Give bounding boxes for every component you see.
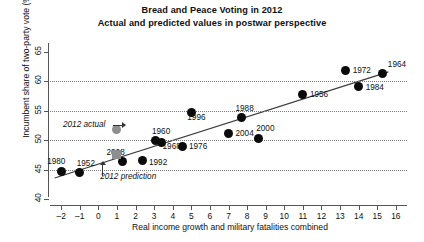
x-axis-tick-label: –1 [71, 211, 89, 221]
chart-container: Bread and Peace Voting in 2012 Actual an… [0, 0, 424, 242]
x-axis-tick-label: 3 [145, 211, 163, 221]
x-axis-tick [210, 205, 211, 210]
x-axis-tick-label: 16 [387, 211, 405, 221]
data-point [112, 150, 121, 159]
x-axis-tick-label: 14 [350, 211, 368, 221]
x-axis-tick [117, 205, 118, 210]
x-axis-tick [247, 205, 248, 210]
data-point [237, 113, 246, 122]
x-axis-tick [98, 205, 99, 210]
data-point [178, 142, 187, 151]
gridline [50, 81, 407, 82]
x-axis-tick-label: 1 [108, 211, 126, 221]
data-point-label: 1988 [236, 104, 254, 113]
data-point-label: 1964 [388, 60, 406, 69]
gridline [50, 170, 407, 171]
x-axis-tick [61, 205, 62, 210]
x-axis-tick [191, 205, 192, 210]
x-axis-tick [173, 205, 174, 210]
x-axis-tick-label: 12 [312, 211, 330, 221]
x-axis-tick [321, 205, 322, 210]
y-axis-tick [44, 52, 49, 53]
y-axis-tick [44, 81, 49, 82]
x-axis-tick-label: 2 [127, 211, 145, 221]
data-point [57, 167, 66, 176]
x-axis-tick [377, 205, 378, 210]
gridline [50, 140, 407, 141]
y-axis-tick [44, 170, 49, 171]
data-point [354, 82, 363, 91]
x-axis-tick-label: 13 [331, 211, 349, 221]
x-axis-tick-label: 15 [368, 211, 386, 221]
x-axis-tick [136, 205, 137, 210]
x-axis-tick [303, 205, 304, 210]
x-axis-tick-label: –2 [52, 211, 70, 221]
data-point-label: 1960 [152, 127, 170, 136]
annotation-arrow-icon [102, 165, 103, 176]
x-axis-tick [359, 205, 360, 210]
x-axis-tick-label: 11 [294, 211, 312, 221]
x-axis-tick-label: 8 [238, 211, 256, 221]
data-point-label: 1976 [189, 142, 207, 151]
x-axis-tick-label: 10 [275, 211, 293, 221]
annotation-arrow-icon [113, 125, 125, 126]
x-axis-tick-label: 0 [89, 211, 107, 221]
plot-area: 404550556065–2–1012345678910111213141516… [0, 0, 424, 242]
x-axis-tick [396, 205, 397, 210]
data-point-label: 1980 [47, 157, 65, 166]
data-point [254, 134, 263, 143]
data-point-label: 1952 [77, 159, 95, 168]
data-point-label: 2000 [256, 124, 274, 133]
x-axis-tick-label: 7 [220, 211, 238, 221]
x-axis-tick-label: 5 [182, 211, 200, 221]
data-point-label: 1996 [187, 113, 205, 122]
x-axis-tick [80, 205, 81, 210]
x-axis-tick [229, 205, 230, 210]
annotation-label: 2012 prediction [100, 172, 156, 181]
data-point-label: 1972 [353, 66, 371, 75]
y-axis-tick [44, 199, 49, 200]
data-point-label: 2004 [236, 129, 254, 138]
x-axis-tick-label: 6 [201, 211, 219, 221]
x-axis-tick [266, 205, 267, 210]
x-axis-tick-label: 9 [257, 211, 275, 221]
gridline [50, 111, 407, 112]
data-point-label: 1956 [310, 90, 328, 99]
annotation-label: 2012 actual [63, 120, 105, 129]
data-point-label: 1984 [366, 83, 384, 92]
x-axis-tick [340, 205, 341, 210]
x-axis-tick [284, 205, 285, 210]
y-axis-tick [44, 111, 49, 112]
y-axis-tick [44, 140, 49, 141]
data-point-label: 1992 [149, 158, 167, 167]
x-axis-tick-label: 4 [164, 211, 182, 221]
data-point [224, 129, 233, 138]
x-axis-tick [154, 205, 155, 210]
